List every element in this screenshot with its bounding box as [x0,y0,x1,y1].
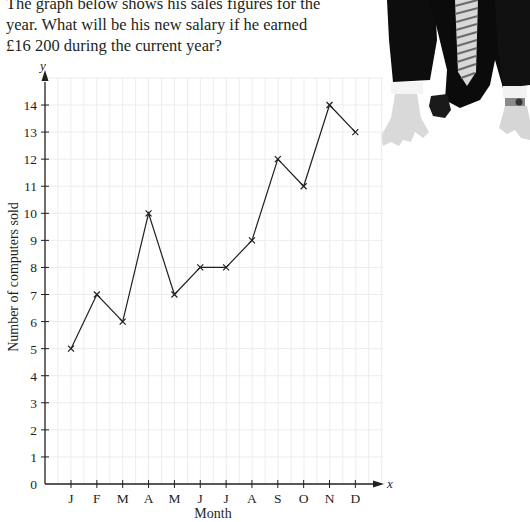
y-tick-label: 5 [30,342,37,357]
y-tick-label: 0 [30,477,37,492]
y-tick-label: 9 [30,233,37,248]
grid-lines [45,78,383,484]
x-axis-arrow-icon [373,481,384,488]
x-tick-label: D [350,491,360,506]
x-tick-label: O [299,491,309,506]
y-axis-variable: y [38,58,46,73]
x-axis-variable: x [386,476,393,491]
x-tick-label: J [68,491,73,506]
y-tick-label: 4 [30,369,37,384]
y-tick-label: 11 [24,179,37,194]
x-tick-label: A [247,491,257,506]
y-axis-title: Number of computers sold [6,202,21,352]
y-tick-label: 12 [24,152,38,167]
y-tick-label: 7 [30,288,37,303]
line-chart: y x 01234567891011121314 JFMAMJJASOND Mo… [0,0,530,522]
y-tick-label: 8 [30,260,37,275]
y-tick-label: 14 [24,98,38,113]
axes: y x [38,58,393,491]
x-tick-label: M [117,491,129,506]
y-tick-label: 3 [30,396,37,411]
x-tick-label: N [325,491,335,506]
x-tick-label: F [93,491,101,506]
y-tick-label: 6 [30,315,37,330]
y-tick-label: 2 [30,423,37,438]
x-tick-label: M [168,491,180,506]
x-tick-label: J [223,491,228,506]
y-tick-label: 10 [24,206,38,221]
y-tick-label: 1 [30,450,37,465]
x-tick-label: J [198,491,203,506]
x-axis-title: Month [194,506,231,521]
x-tick-label: A [144,491,154,506]
x-tick-label: S [274,491,282,506]
y-tick-label: 13 [24,125,38,140]
